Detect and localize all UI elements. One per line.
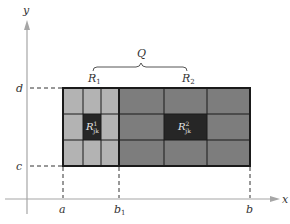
y-axis-label: y	[22, 4, 30, 17]
region-r2-label: R2	[181, 72, 195, 86]
x-axis-arrow-icon	[270, 196, 280, 202]
x-tick-b1: b1	[114, 203, 126, 217]
double-integral-partition-diagram: x y R1jk R2jk Q R1 R	[0, 0, 290, 224]
x-tick-b: b	[246, 203, 253, 216]
y-tick-d: d	[16, 82, 23, 95]
y-axis-arrow-icon	[24, 20, 30, 30]
brace-icon	[93, 63, 187, 71]
y-tick-c: c	[16, 160, 22, 173]
x-axis-label: x	[282, 193, 289, 206]
region-r1-label: R1	[87, 72, 101, 86]
brace-label-q: Q	[137, 47, 146, 60]
x-tick-a: a	[59, 203, 66, 216]
